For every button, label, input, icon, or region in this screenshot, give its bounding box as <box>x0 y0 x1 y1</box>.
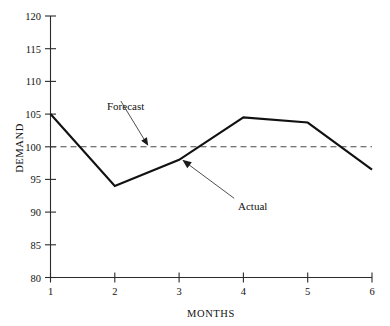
y-tick-label-95: 95 <box>31 174 42 185</box>
chart-canvas: 120 115 110 105 100 95 90 85 80 1 2 3 4 … <box>0 0 390 326</box>
forecast-annotation-label: Forecast <box>107 100 144 112</box>
x-tick-label-5: 5 <box>305 286 310 297</box>
y-axis-title: DEMAND <box>14 123 25 173</box>
x-tick-labels: 1 2 3 4 5 6 <box>48 286 375 297</box>
y-tick-label-105: 105 <box>25 109 41 120</box>
y-tick-label-110: 110 <box>26 76 41 87</box>
demand-forecast-chart: 120 115 110 105 100 95 90 85 80 1 2 3 4 … <box>0 0 390 326</box>
actual-arrow-icon <box>182 160 191 168</box>
x-tick-label-1: 1 <box>48 286 53 297</box>
y-tick-label-115: 115 <box>26 44 41 55</box>
forecast-arrow-icon <box>141 137 148 146</box>
y-tick-label-100: 100 <box>25 142 41 153</box>
actual-series-line <box>51 114 373 186</box>
y-tick-label-80: 80 <box>31 273 42 284</box>
x-tick-label-3: 3 <box>176 286 181 297</box>
actual-annotation: Actual <box>182 160 267 212</box>
y-tick-label-90: 90 <box>31 207 42 218</box>
y-tick-label-120: 120 <box>25 11 41 22</box>
x-axis-title: MONTHS <box>187 308 235 319</box>
y-tick-labels: 120 115 110 105 100 95 90 85 80 <box>25 11 41 284</box>
y-tick-label-85: 85 <box>31 240 42 251</box>
x-tick-label-6: 6 <box>369 286 374 297</box>
x-tick-label-4: 4 <box>241 286 247 297</box>
x-tick-label-2: 2 <box>112 286 117 297</box>
actual-annotation-label: Actual <box>238 200 267 212</box>
forecast-annotation: Forecast <box>107 100 148 146</box>
actual-leader-line <box>186 163 234 198</box>
